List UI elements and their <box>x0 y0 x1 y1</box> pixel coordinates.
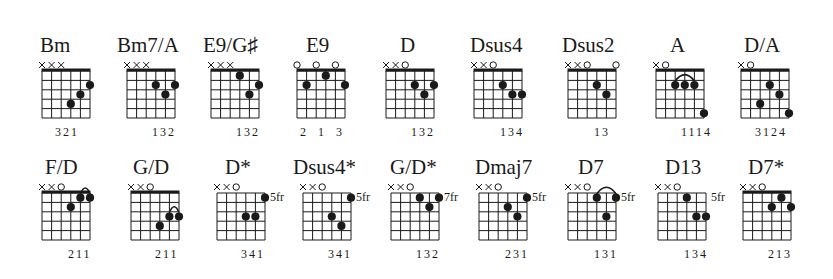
nut <box>297 69 346 72</box>
chord-diagram-g-d <box>131 183 219 250</box>
fingering-label: 132 <box>416 247 440 262</box>
finger-dot <box>612 194 620 202</box>
open-string-icon <box>490 62 496 68</box>
finger-dot <box>86 81 94 89</box>
finger-dot <box>236 72 244 80</box>
muted-string-icon <box>481 62 487 68</box>
chord-name-d-alt: D* <box>225 155 251 179</box>
finger-dot <box>683 194 691 202</box>
muted-string-icon <box>218 62 224 68</box>
finger-dot <box>425 203 433 211</box>
chord-diagram-f-d <box>42 183 130 250</box>
finger-dot <box>775 90 783 98</box>
fingering-label: 132 <box>411 125 435 140</box>
finger-dot <box>692 212 700 220</box>
fingering-label: 341 <box>328 247 352 262</box>
chord-name-e9-g: E9/G♯ <box>203 33 258 57</box>
finger-dot <box>341 81 349 89</box>
muted-string-icon <box>565 62 571 68</box>
fingering-label: 213 <box>768 247 792 262</box>
chord-name-d13: D13 <box>665 155 701 179</box>
chord-diagram-dsus4-alt <box>303 183 391 250</box>
fret-position-label: 5fr <box>532 190 546 205</box>
fingering-label: 341 <box>241 247 265 262</box>
nut <box>568 69 617 72</box>
open-string-icon <box>584 184 590 190</box>
chord-name-dsus2: Dsus2 <box>562 33 615 57</box>
muted-string-icon <box>575 184 581 190</box>
fingering-label: 211 <box>155 247 179 262</box>
fingering-label: 1114 <box>681 125 712 140</box>
open-string-icon <box>407 184 413 190</box>
chord-diagram-d-a <box>741 61 829 128</box>
muted-string-icon <box>39 184 45 190</box>
finger-dot <box>411 81 419 89</box>
fingering-label: 134 <box>500 125 524 140</box>
open-string-icon <box>319 184 325 190</box>
finger-dot <box>508 90 516 98</box>
chord-diagram-g-d-alt <box>391 183 479 250</box>
muted-string-icon <box>227 62 233 68</box>
fret-position-label: 5fr <box>356 190 370 205</box>
finger-dot <box>261 194 269 202</box>
fingering-label: 2 1 3 <box>300 125 344 140</box>
chord-name-g-d-alt: G/D* <box>390 155 437 179</box>
open-string-icon <box>233 184 239 190</box>
finger-dot <box>420 90 428 98</box>
chord-name-g-d: G/D <box>133 155 169 179</box>
open-string-icon <box>294 62 300 68</box>
chord-name-dsus4: Dsus4 <box>470 33 523 57</box>
chord-name-d7: D7 <box>578 155 604 179</box>
finger-dot <box>303 81 311 89</box>
chord-diagram-bm <box>42 61 130 128</box>
finger-dot <box>593 81 601 89</box>
muted-string-icon <box>310 184 316 190</box>
finger-dot <box>777 194 785 202</box>
nut <box>42 191 91 194</box>
nut <box>42 69 91 72</box>
muted-string-icon <box>224 184 230 190</box>
muted-string-icon <box>49 62 55 68</box>
nut <box>743 191 792 194</box>
nut <box>211 69 260 72</box>
finger-dot <box>787 203 795 211</box>
finger-dot <box>518 90 526 98</box>
muted-string-icon <box>665 184 671 190</box>
finger-dot <box>416 194 424 202</box>
open-string-icon <box>584 62 590 68</box>
finger-dot <box>328 212 336 220</box>
fret-position-label: 5fr <box>621 190 635 205</box>
finger-dot <box>347 194 355 202</box>
muted-string-icon <box>575 62 581 68</box>
muted-string-icon <box>138 184 144 190</box>
finger-dot <box>76 90 84 98</box>
finger-dot <box>337 222 345 230</box>
finger-dot <box>766 81 774 89</box>
fingering-label: 131 <box>594 247 618 262</box>
muted-string-icon <box>39 62 45 68</box>
finger-dot <box>67 203 75 211</box>
chord-name-d: D <box>400 33 415 57</box>
finger-dot <box>681 81 689 89</box>
chord-name-dmaj7: Dmaj7 <box>475 155 532 179</box>
muted-string-icon <box>134 62 140 68</box>
finger-dot <box>165 212 173 220</box>
finger-dot <box>152 81 160 89</box>
open-string-icon <box>313 62 319 68</box>
chord-diagram-d7 <box>568 183 656 250</box>
muted-string-icon <box>398 184 404 190</box>
finger-dot <box>785 109 793 117</box>
chord-diagram-d <box>386 61 474 128</box>
finger-dot <box>171 81 179 89</box>
nut <box>656 69 705 72</box>
finger-dot <box>756 100 764 108</box>
fingering-label: 231 <box>505 247 529 262</box>
chord-diagram-d-alt <box>217 183 305 250</box>
muted-string-icon <box>58 62 64 68</box>
fret-position-label: 7fr <box>444 190 458 205</box>
open-string-icon <box>495 184 501 190</box>
fret-position-label: 5fr <box>270 190 284 205</box>
finger-dot <box>251 212 259 220</box>
open-string-icon <box>147 184 153 190</box>
chord-name-a: A <box>670 33 685 57</box>
